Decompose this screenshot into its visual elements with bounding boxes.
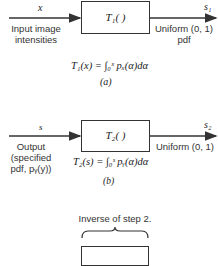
output-var-b: s₂: [204, 119, 211, 130]
input-label-a: Input image intensities: [3, 23, 69, 45]
equation-a: T₁(x) = ∫₀ˣ pₓ(α)dα: [71, 60, 148, 71]
input-var-a: x: [38, 2, 42, 13]
input-label-b-line2: (specified: [4, 152, 58, 163]
output-label-a-line2: pdf: [150, 34, 218, 45]
block-t2-label: T₂( ): [82, 129, 149, 141]
block-t1-label: T₁( ): [82, 11, 149, 23]
caption-a: (a): [100, 76, 112, 87]
caption-b: (b): [103, 176, 114, 186]
block-inverse: [81, 246, 149, 266]
output-var-a: s₁: [204, 1, 211, 12]
input-label-b-line1: Output: [4, 141, 58, 152]
input-label-a-line1: Input image: [3, 23, 69, 34]
output-label-b: Uniform (0, 1): [152, 141, 218, 152]
brace-label: Inverse of step 2.: [70, 213, 160, 224]
output-label-a-line1: Uniform (0, 1): [150, 23, 218, 34]
input-label-a-line2: intensities: [3, 34, 69, 45]
block-t2: T₂( ): [81, 120, 150, 152]
output-label-a: Uniform (0, 1) pdf: [150, 23, 218, 45]
input-label-b-line3: pdf, pᵧ(y)): [4, 163, 58, 174]
input-var-b: s: [39, 122, 43, 132]
block-t1: T₁( ): [81, 1, 150, 34]
curly-brace: [82, 227, 148, 238]
input-label-b: Output (specified pdf, pᵧ(y)): [4, 141, 58, 174]
equation-b: T₂(s) = ∫₀ˢ pᵧ(α)dα: [73, 156, 148, 167]
output-label-b-line1: Uniform (0, 1): [152, 141, 218, 152]
